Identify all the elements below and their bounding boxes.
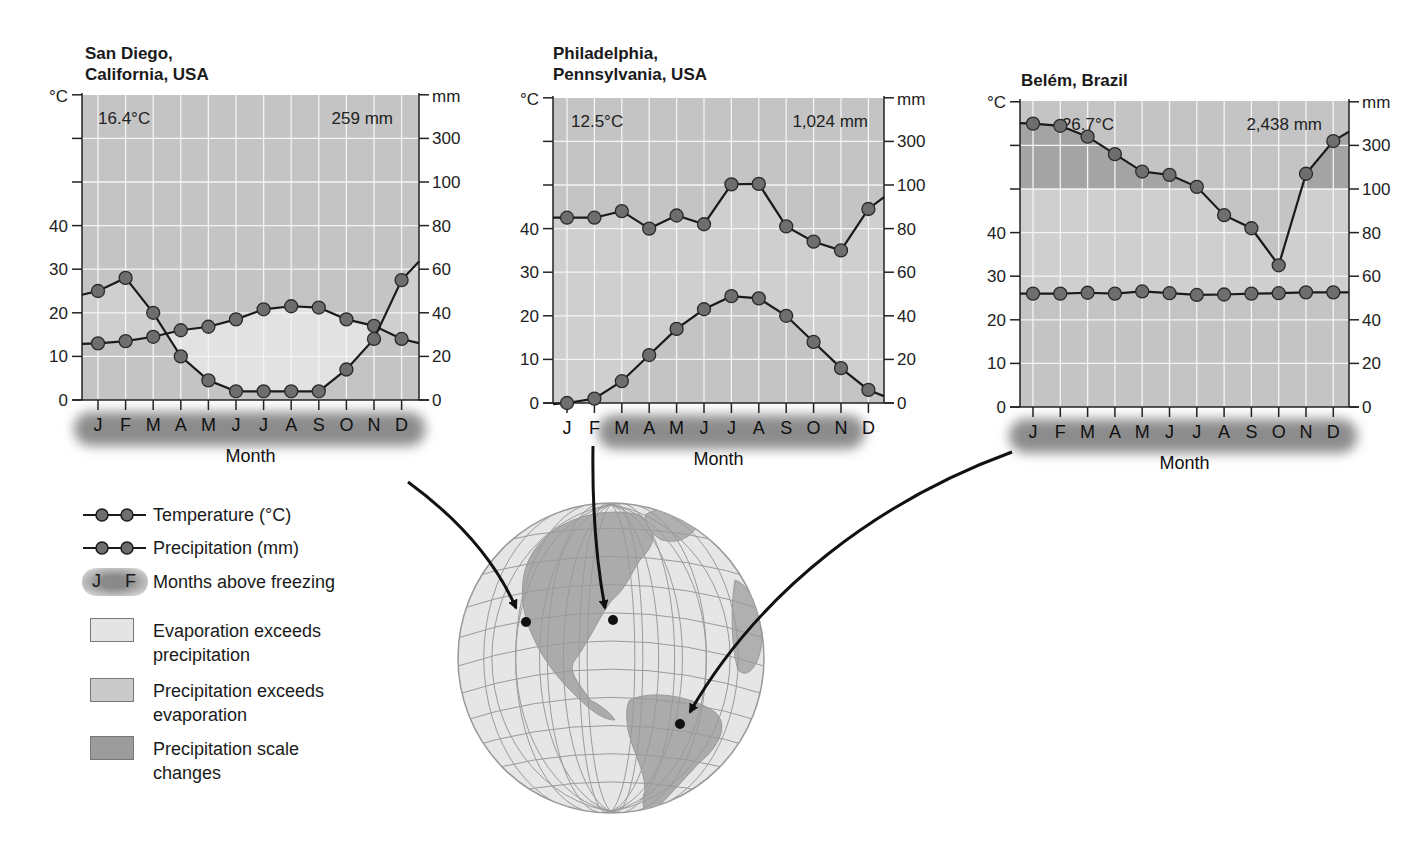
- svg-text:Month: Month: [693, 449, 743, 469]
- svg-text:A: A: [175, 415, 187, 435]
- svg-text:A: A: [753, 418, 765, 438]
- svg-text:O: O: [339, 415, 353, 435]
- svg-text:300: 300: [432, 129, 460, 148]
- svg-text:Month: Month: [1159, 453, 1209, 473]
- globe-map: [452, 500, 770, 813]
- svg-text:J: J: [232, 415, 241, 435]
- svg-text:mm: mm: [1362, 93, 1390, 112]
- svg-text:100: 100: [1362, 180, 1390, 199]
- svg-text:mm: mm: [897, 90, 925, 109]
- svg-text:M: M: [201, 415, 216, 435]
- climograph-2: 010203040°C020406080100300mm26.7°C2,438 …: [987, 93, 1390, 473]
- legend-line-temperature: [80, 505, 150, 525]
- svg-text:60: 60: [1362, 267, 1381, 286]
- svg-text:D: D: [862, 418, 875, 438]
- dot-philadelphia: [608, 615, 618, 625]
- legend-swatch-evaporation: [90, 618, 134, 642]
- legend-months-above-freezing: Months above freezing: [153, 571, 335, 593]
- svg-text:12.5°C: 12.5°C: [571, 112, 623, 131]
- svg-text:°C: °C: [987, 93, 1006, 112]
- svg-text:J: J: [94, 415, 103, 435]
- svg-text:10: 10: [987, 354, 1006, 373]
- svg-text:40: 40: [520, 220, 539, 239]
- svg-text:N: N: [835, 418, 848, 438]
- svg-text:M: M: [614, 418, 629, 438]
- svg-text:80: 80: [432, 217, 451, 236]
- svg-text:O: O: [1272, 422, 1286, 442]
- svg-text:J: J: [1192, 422, 1201, 442]
- svg-text:J: J: [700, 418, 709, 438]
- svg-text:259 mm: 259 mm: [332, 109, 393, 128]
- svg-text:10: 10: [520, 350, 539, 369]
- svg-text:10: 10: [49, 347, 68, 366]
- svg-text:80: 80: [1362, 224, 1381, 243]
- legend-precip-line1: Precipitation exceeds: [153, 680, 324, 702]
- svg-text:O: O: [807, 418, 821, 438]
- svg-text:30: 30: [520, 263, 539, 282]
- svg-text:30: 30: [987, 267, 1006, 286]
- svg-text:J: J: [727, 418, 736, 438]
- climograph-1: 010203040°C020406080100300mm12.5°C1,024 …: [520, 90, 925, 469]
- svg-text:300: 300: [1362, 136, 1390, 155]
- svg-text:A: A: [1218, 422, 1230, 442]
- svg-text:N: N: [368, 415, 381, 435]
- svg-text:D: D: [1327, 422, 1340, 442]
- svg-text:60: 60: [897, 263, 916, 282]
- svg-text:20: 20: [432, 347, 451, 366]
- legend-evap-line1: Evaporation exceeds: [153, 620, 321, 642]
- svg-text:S: S: [313, 415, 325, 435]
- svg-text:°C: °C: [49, 87, 68, 106]
- legend-temperature: Temperature (°C): [153, 504, 291, 526]
- svg-text:M: M: [1135, 422, 1150, 442]
- svg-text:M: M: [146, 415, 161, 435]
- svg-text:J: J: [563, 418, 572, 438]
- svg-text:A: A: [643, 418, 655, 438]
- svg-text:100: 100: [897, 176, 925, 195]
- svg-text:S: S: [1245, 422, 1257, 442]
- svg-text:S: S: [780, 418, 792, 438]
- svg-text:N: N: [1300, 422, 1313, 442]
- legend-evap-line2: precipitation: [153, 644, 250, 666]
- svg-text:40: 40: [49, 217, 68, 236]
- legend-scale-line1: Precipitation scale: [153, 738, 299, 760]
- svg-text:16.4°C: 16.4°C: [98, 109, 150, 128]
- svg-text:40: 40: [1362, 311, 1381, 330]
- svg-text:D: D: [395, 415, 408, 435]
- svg-text:20: 20: [1362, 354, 1381, 373]
- svg-text:0: 0: [59, 391, 68, 410]
- svg-text:F: F: [120, 415, 131, 435]
- svg-text:mm: mm: [432, 87, 460, 106]
- svg-text:100: 100: [432, 173, 460, 192]
- svg-text:2,438 mm: 2,438 mm: [1246, 115, 1322, 134]
- svg-text:Month: Month: [225, 446, 275, 466]
- legend-line-precipitation: [80, 538, 150, 558]
- svg-text:M: M: [669, 418, 684, 438]
- svg-text:F: F: [589, 418, 600, 438]
- legend-month-f: F: [125, 571, 136, 592]
- svg-text:0: 0: [1362, 398, 1371, 417]
- svg-text:0: 0: [897, 394, 906, 413]
- svg-text:J: J: [1165, 422, 1174, 442]
- svg-text:20: 20: [897, 350, 916, 369]
- svg-text:60: 60: [432, 260, 451, 279]
- legend-precipitation: Precipitation (mm): [153, 537, 299, 559]
- dot-belem: [675, 719, 685, 729]
- svg-text:0: 0: [432, 391, 441, 410]
- legend-scale-line2: changes: [153, 762, 221, 784]
- svg-text:20: 20: [49, 304, 68, 323]
- svg-text:J: J: [1029, 422, 1038, 442]
- climograph-0: 010203040°C020406080100300mm16.4°C259 mm…: [49, 87, 460, 466]
- svg-text:F: F: [1055, 422, 1066, 442]
- svg-text:80: 80: [897, 220, 916, 239]
- svg-text:0: 0: [530, 394, 539, 413]
- svg-text:M: M: [1080, 422, 1095, 442]
- svg-text:20: 20: [520, 307, 539, 326]
- svg-text:J: J: [259, 415, 268, 435]
- dot-san-diego: [521, 617, 531, 627]
- legend-precip-line2: evaporation: [153, 704, 247, 726]
- svg-text:A: A: [285, 415, 297, 435]
- svg-text:40: 40: [897, 307, 916, 326]
- legend-swatch-precipitation: [90, 678, 134, 702]
- svg-text:40: 40: [432, 304, 451, 323]
- svg-text:°C: °C: [520, 90, 539, 109]
